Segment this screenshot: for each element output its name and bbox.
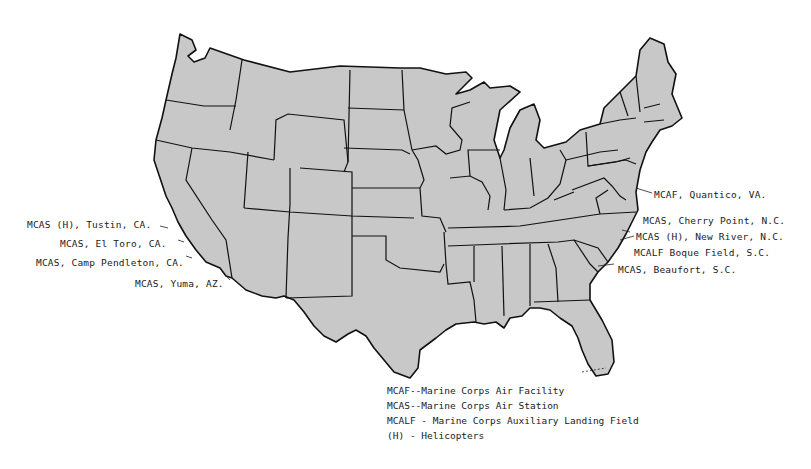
label-quantico: MCAF, Quantico, VA.	[654, 189, 766, 200]
legend-mcalf: MCALF - Marine Corps Auxiliary Landing F…	[387, 413, 639, 428]
label-boque-field: MCALF Boque Field, S.C.	[634, 247, 770, 258]
legend-helicopters: (H) - Helicopters	[387, 428, 639, 443]
label-cherry-point: MCAS, Cherry Point, N.C.	[643, 215, 785, 226]
legend-mcaf: MCAF--Marine Corps Air Facility	[387, 383, 639, 398]
legend: MCAF--Marine Corps Air Facility MCAS--Ma…	[387, 383, 639, 443]
us-outline	[154, 34, 682, 378]
label-new-river: MCAS (H), New River, N.C.	[636, 231, 784, 242]
label-camp-pendleton: MCAS, Camp Pendleton, CA.	[36, 257, 184, 268]
legend-mcas: MCAS--Marine Corps Air Station	[387, 398, 639, 413]
label-tustin: MCAS (H), Tustin, CA.	[27, 219, 151, 230]
label-yuma: MCAS, Yuma, AZ.	[135, 278, 224, 289]
label-el-toro: MCAS, El Toro, CA.	[60, 238, 167, 249]
label-beaufort: MCAS, Beaufort, S.C.	[618, 264, 736, 275]
